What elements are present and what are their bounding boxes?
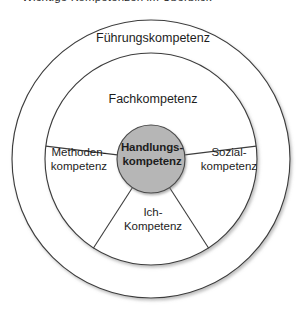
competence-circle-diagram: Führungskompetenz Fachkompetenz Methoden… — [0, 0, 306, 315]
diagram-canvas — [0, 0, 306, 315]
core-circle — [117, 125, 185, 193]
